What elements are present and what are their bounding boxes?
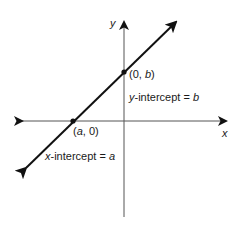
y-intercept-point: [121, 69, 126, 74]
y-intercept-coord-label: (0, b): [129, 68, 155, 80]
x-axis-label: x: [221, 127, 228, 139]
x-intercept-annotation: x-intercept = a: [44, 150, 115, 162]
y-axis-label: y: [109, 17, 117, 29]
x-intercept-point: [70, 118, 75, 123]
x-intercept-coord-label: (a, 0): [73, 125, 99, 137]
y-intercept-annotation: y-intercept = b: [128, 91, 199, 103]
coordinate-plane: y x (0, b) y-intercept = b (a, 0) x-inte…: [0, 0, 241, 228]
